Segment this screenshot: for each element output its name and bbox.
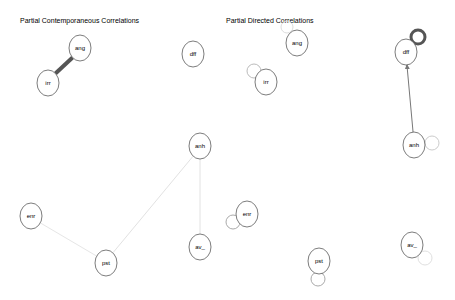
svg-text:irr: irr — [263, 79, 268, 85]
node-irr-directed: irr — [255, 69, 277, 95]
node-dff-contemporaneous: dff — [182, 41, 204, 67]
svg-text:anh: anh — [409, 142, 419, 148]
node-enr-directed: enr — [236, 201, 258, 227]
self-loop-anh — [425, 136, 439, 150]
svg-text:av_: av_ — [195, 244, 205, 250]
node-ang-contemporaneous: ang — [69, 35, 91, 61]
svg-text:anh: anh — [195, 143, 205, 149]
panel-title-contemporaneous: Partial Contemporaneous Correlations — [20, 17, 140, 25]
network-diagram: Partial Contemporaneous Correlations Par… — [0, 0, 455, 300]
edges-layer — [40, 21, 439, 286]
svg-text:av_: av_ — [407, 242, 417, 248]
svg-text:ang: ang — [292, 40, 302, 46]
node-dff-directed: dff — [395, 39, 417, 65]
edge-enr-pst — [40, 223, 96, 256]
edge-anh-dff — [407, 65, 413, 132]
node-enr-contemporaneous: enr — [20, 203, 42, 229]
svg-text:enr: enr — [27, 213, 36, 219]
svg-text:ang: ang — [75, 45, 85, 51]
node-av-directed: av_ — [401, 232, 423, 258]
node-pst-directed: pst — [308, 248, 330, 274]
svg-text:dff: dff — [190, 51, 197, 57]
edge-anh-pst — [113, 156, 193, 253]
svg-text:enr: enr — [243, 211, 252, 217]
svg-text:irr: irr — [45, 80, 50, 86]
node-irr-contemporaneous: irr — [37, 70, 59, 96]
svg-text:pst: pst — [315, 258, 323, 264]
node-pst-contemporaneous: pst — [95, 250, 117, 276]
edge-ang-irr — [55, 58, 72, 74]
node-anh-contemporaneous: anh — [189, 133, 211, 159]
svg-text:dff: dff — [403, 49, 410, 55]
node-anh-directed: anh — [403, 132, 425, 158]
node-av-contemporaneous: av_ — [189, 234, 211, 260]
panel-title-directed: Partial Directed Correlations — [226, 17, 314, 24]
nodes-layer: angirrdffanhav_enrpstangirrdffanhav_enrp… — [20, 30, 425, 276]
node-ang-directed: ang — [286, 30, 308, 56]
svg-text:pst: pst — [102, 260, 110, 266]
